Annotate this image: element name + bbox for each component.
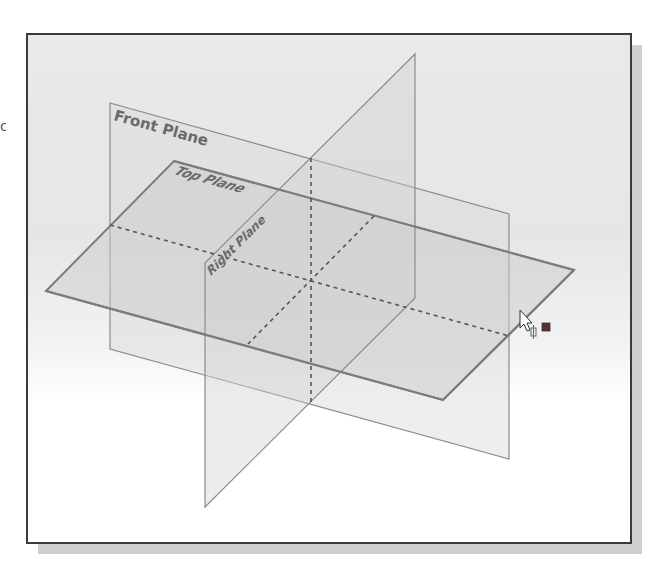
plane-select-icon <box>531 323 550 339</box>
planes-scene[interactable]: Front Plane Top Plane Right Plane <box>0 0 663 569</box>
mouse-cursor-icon <box>520 310 550 339</box>
